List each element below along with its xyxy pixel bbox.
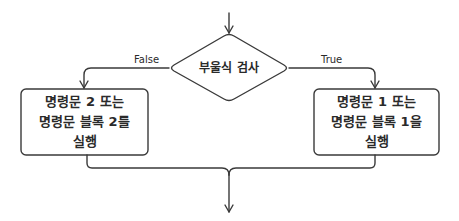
decision-text: 부울식 검사	[199, 58, 258, 78]
true-block-text: 명령문 1 또는 명령문 블록 1을 실행	[314, 89, 439, 155]
false-block-line-3: 실행	[73, 132, 97, 152]
true-branch-label: True	[321, 55, 342, 65]
merge-connector	[87, 155, 375, 212]
false-branch-connector	[80, 68, 169, 88]
false-block-line-1: 명령문 2 또는	[45, 92, 123, 112]
true-branch-connector	[289, 68, 379, 88]
entry-arrow	[225, 13, 233, 33]
decision-label: 부울식 검사	[170, 56, 288, 80]
false-block-text: 명령문 2 또는 명령문 블록 2를 실행	[21, 89, 148, 155]
false-block-line-2: 명령문 블록 2를	[39, 112, 129, 132]
true-block-line-1: 명령문 1 또는	[337, 92, 415, 112]
true-block-line-2: 명령문 블록 1을	[331, 112, 421, 132]
true-block-line-3: 실행	[365, 132, 389, 152]
false-branch-label: False	[134, 55, 159, 65]
